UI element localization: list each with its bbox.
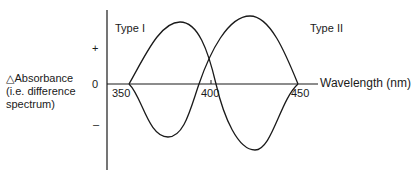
spectrum-plot — [0, 0, 414, 181]
type-1-curve — [129, 22, 298, 150]
